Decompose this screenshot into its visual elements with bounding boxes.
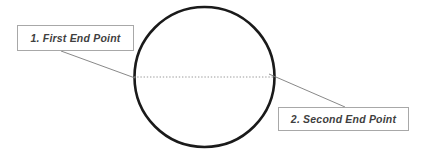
leader-line-first	[61, 51, 135, 78]
callout-label-second-end-point: 2. Second End Point	[291, 114, 396, 125]
diagram-canvas: 1. First End Point 2. Second End Point	[0, 0, 421, 153]
callout-label-first-end-point: 1. First End Point	[31, 33, 121, 44]
callout-box-first-end-point[interactable]: 1. First End Point	[17, 25, 134, 51]
leader-line-second	[269, 74, 345, 107]
callout-box-second-end-point[interactable]: 2. Second End Point	[278, 107, 409, 131]
